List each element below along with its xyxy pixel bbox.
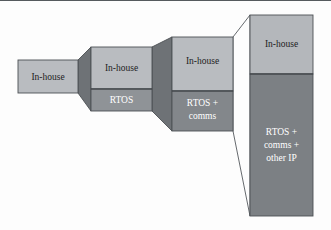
stage-4-in-house-label: In-house — [265, 39, 298, 49]
stage-3-rtos-comms-line1: RTOS + — [187, 98, 218, 108]
stage-2-block[interactable]: In-house RTOS — [91, 47, 152, 111]
stage-3-in-house-label: In-house — [186, 56, 219, 66]
stack-growth-diagram: In-house In-house RTOS In-house RTOS + c… — [0, 1, 331, 230]
connector-stage2-stage3 — [152, 37, 172, 131]
stage-4-rtos-comms-ip-line3: other IP — [266, 153, 296, 163]
stage-4-rtos-comms-ip-line1: RTOS + — [266, 127, 297, 137]
stage-1-in-house-label: In-house — [31, 72, 64, 82]
stage-4-rtos-comms-ip-line2: comms + — [264, 140, 299, 150]
stage-2-rtos-label: RTOS — [110, 95, 134, 105]
connector-stage3-stage4 — [233, 15, 250, 216]
stage-4-block[interactable]: In-house RTOS + comms + other IP — [250, 15, 313, 216]
stage-1-block[interactable]: In-house — [18, 60, 78, 93]
diagram-canvas: In-house In-house RTOS In-house RTOS + c… — [0, 0, 331, 230]
stage-3-rtos-comms-line2: comms — [189, 111, 217, 121]
stage-2-in-house-label: In-house — [105, 63, 138, 73]
stage-3-block[interactable]: In-house RTOS + comms — [172, 37, 233, 131]
connector-stage1-stage2 — [78, 47, 91, 111]
